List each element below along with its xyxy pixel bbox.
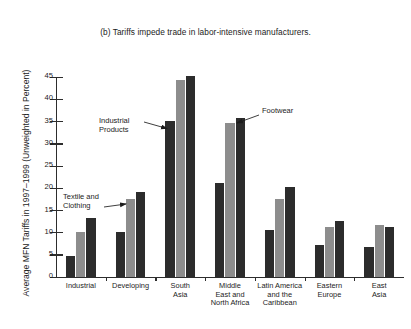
y-axis-title: Average MFN Tariffs in 1997–1999 (Unweig… <box>21 58 31 308</box>
bar <box>126 199 135 276</box>
bar <box>215 183 224 276</box>
x-axis-group-separator <box>106 277 107 281</box>
y-axis-tick-label: 10 <box>45 227 53 236</box>
y-axis-tick-label: 25 <box>45 160 53 169</box>
bar <box>176 80 185 276</box>
x-axis-group-separator <box>305 277 306 281</box>
bar <box>66 256 75 276</box>
x-axis-label: East Asia <box>354 282 404 299</box>
y-axis-tick-label: 20 <box>45 182 53 191</box>
bar <box>315 245 324 277</box>
y-axis-tick-label: 40 <box>45 93 53 102</box>
x-axis-line <box>56 277 404 278</box>
bar <box>136 192 145 276</box>
y-axis-tick-label: 5 <box>49 249 53 258</box>
bar <box>285 187 294 277</box>
chart-title: (b) Tariffs impede trade in labor-intens… <box>0 27 411 37</box>
bar <box>364 247 373 276</box>
y-axis-tick-label: 30 <box>45 138 53 147</box>
y-axis-tick-label: 45 <box>45 71 53 80</box>
bar <box>275 199 284 277</box>
bar <box>335 221 344 277</box>
x-axis-group-separator <box>354 277 355 281</box>
plot-area: 051015202530354045 <box>56 70 404 278</box>
y-axis-tick-label: 15 <box>45 205 53 214</box>
x-axis-label: Latin America and the Caribbean <box>255 282 305 308</box>
bar <box>236 118 245 276</box>
annotation-textile-and-clothing: Textile and Clothing <box>63 193 99 211</box>
x-axis-label: Eastern Europe <box>305 282 355 299</box>
bar <box>186 76 195 276</box>
bar <box>375 225 384 277</box>
x-axis-group-separator <box>255 277 256 281</box>
x-axis-label: Industrial <box>56 282 106 291</box>
annotation-industrial-products: Industrial Products <box>99 117 129 135</box>
x-axis-label: Developing <box>106 282 156 291</box>
y-axis-tick-label: 0 <box>49 271 53 280</box>
bar <box>225 123 234 276</box>
bar <box>265 230 274 277</box>
x-axis-label: Middle East and North Africa <box>205 282 255 308</box>
x-axis-group-separator <box>155 277 156 281</box>
bar <box>76 232 85 277</box>
bar <box>325 227 334 277</box>
y-axis-line <box>56 77 57 278</box>
chart-figure: (b) Tariffs impede trade in labor-intens… <box>0 0 411 329</box>
bar <box>116 232 125 277</box>
x-axis-group-separator <box>205 277 206 281</box>
bar <box>86 218 95 277</box>
x-axis-label: South Asia <box>155 282 205 299</box>
y-axis-tick-label: 35 <box>45 116 53 125</box>
annotation-footwear: Footwear <box>262 107 293 116</box>
bar <box>385 227 394 277</box>
bar <box>165 121 174 277</box>
